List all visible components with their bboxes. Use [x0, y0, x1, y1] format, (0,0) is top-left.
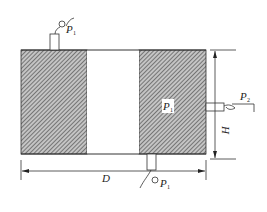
- bottom-gauge-label-sub: 1: [167, 184, 170, 190]
- bottom-nozzle: [147, 154, 156, 170]
- d-arrow-left: [22, 169, 29, 173]
- d-arrow-right: [198, 169, 205, 173]
- bottom-gauge-icon: [140, 170, 151, 188]
- h-arrow-bottom: [213, 151, 217, 158]
- top-nozzle: [50, 34, 59, 50]
- top-gauge-bulb: [59, 21, 65, 27]
- bottom-gauge-bulb: [152, 177, 158, 183]
- h-arrow-top: [213, 51, 217, 58]
- d-dimension-label: D: [101, 172, 110, 184]
- inner-pressure-label: P: [162, 100, 170, 112]
- inner-pressure-label-sub: 1: [170, 107, 173, 113]
- top-gauge-icon: [55, 27, 60, 34]
- bottom-gauge-label: P: [159, 177, 167, 189]
- right-gauge-icon: [224, 105, 235, 109]
- right-gauge-label: P: [239, 90, 247, 102]
- left-wall: [21, 50, 87, 154]
- h-dimension-label: H: [220, 125, 232, 135]
- top-gauge-label-sub: 1: [73, 30, 76, 36]
- vessel-diagram: P 1 P 2 P 1 P 1 D H: [0, 0, 267, 212]
- top-gauge-label: P: [65, 23, 73, 35]
- right-gauge-label-sub: 2: [247, 97, 250, 103]
- center-cavity: [87, 50, 139, 154]
